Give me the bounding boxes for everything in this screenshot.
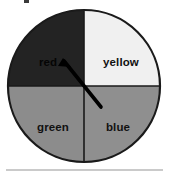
sector-label-blue: blue	[106, 121, 130, 133]
sector-label-green: green	[37, 121, 69, 133]
spinner-figure: red yellow green blue	[0, 0, 169, 175]
sector-label-red: red	[39, 56, 57, 68]
sector-label-yellow: yellow	[103, 56, 139, 68]
top-tick-artifact	[24, 0, 29, 3]
